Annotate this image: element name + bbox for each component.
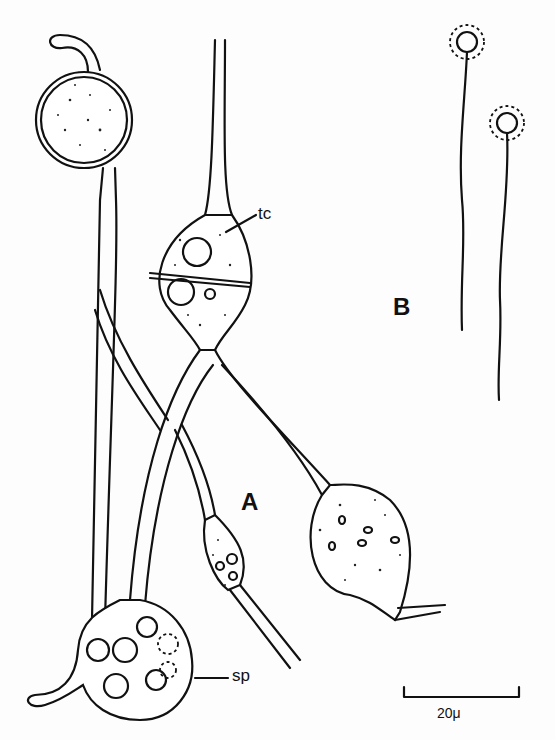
scale-bar: [404, 687, 519, 697]
spore-right: [311, 484, 445, 620]
figure-canvas: tc sp A B 20μ: [0, 0, 555, 740]
label-sp: sp: [232, 666, 250, 686]
cell-tc: [130, 40, 330, 605]
fusiform-cell: [175, 425, 300, 668]
scale-bar-label: 20μ: [437, 705, 461, 721]
spore-sp: [28, 600, 228, 720]
spore-top-left: [36, 35, 168, 620]
panel-b-spores: [450, 25, 524, 400]
line-drawing: [0, 0, 555, 740]
label-tc: tc: [258, 204, 271, 224]
panel-label-b: B: [393, 293, 410, 321]
panel-label-a: A: [241, 488, 258, 516]
